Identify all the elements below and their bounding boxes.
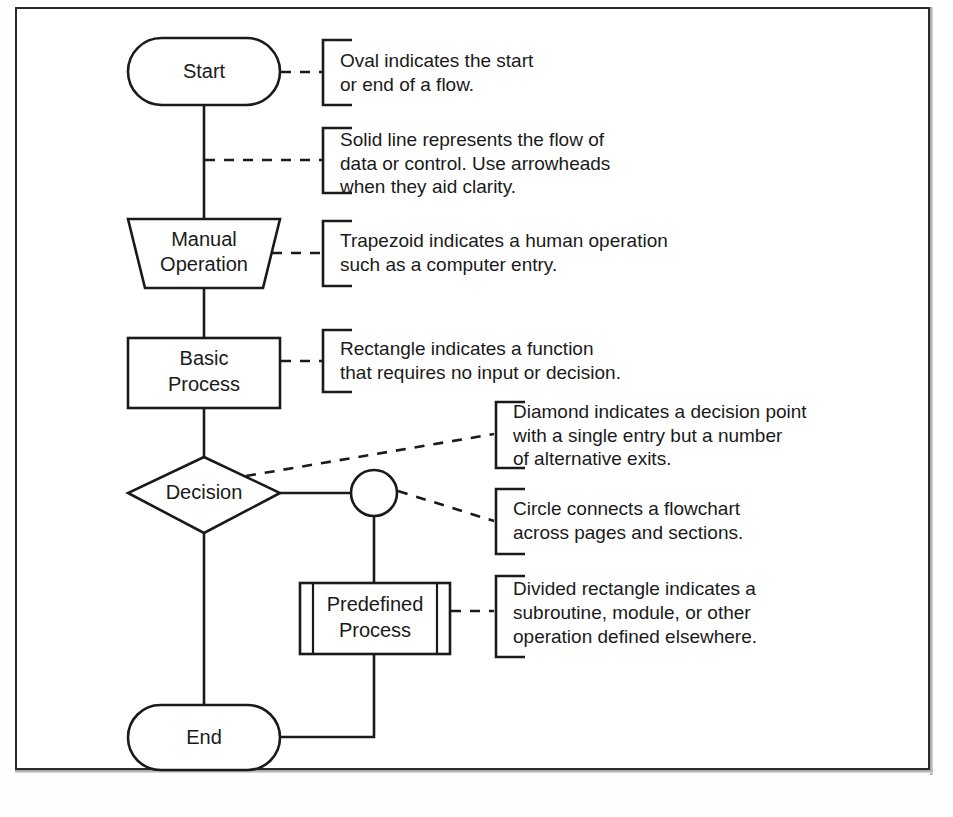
page-edge-shadow-bottom: [15, 770, 933, 773]
diagram-frame: [15, 7, 930, 770]
page-edge-shadow-right: [930, 7, 933, 775]
page-canvas: Start Manual Operation Basic Process Dec…: [0, 0, 953, 817]
